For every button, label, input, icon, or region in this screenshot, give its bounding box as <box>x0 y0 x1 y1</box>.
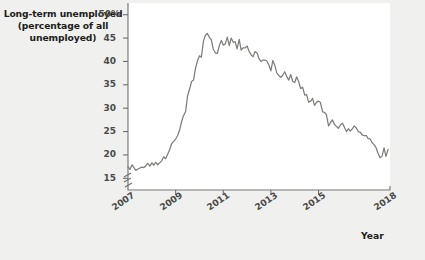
axis-break-icon <box>124 173 132 187</box>
y-tick-label: 25 <box>90 127 116 136</box>
y-tick-label: 30 <box>90 104 116 113</box>
y-tick-label: 15 <box>90 174 116 183</box>
x-axis-title: Year <box>361 230 384 241</box>
y-tick-label: 20 <box>90 150 116 159</box>
y-tick-label: 40 <box>90 57 116 66</box>
data-series <box>128 33 388 170</box>
chart-figure: Long-term unemployed (percentage of all … <box>0 0 425 260</box>
y-tick-label: 45 <box>90 34 116 43</box>
y-tick-label: 50% <box>90 10 120 19</box>
y-tick-label: 35 <box>90 80 116 89</box>
axes <box>128 3 390 190</box>
chart-canvas <box>0 0 425 260</box>
